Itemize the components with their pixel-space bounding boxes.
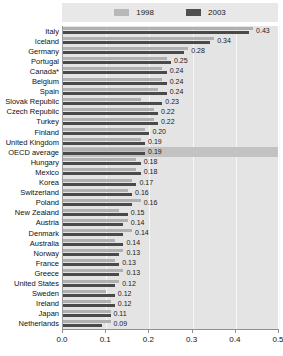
category-label: OECD average [0, 148, 59, 157]
bar-2003 [63, 82, 167, 85]
bar-value-label: 0.12 [118, 289, 132, 299]
bar-value-label: 0.23 [165, 97, 179, 107]
legend-label-1998: 1998 [136, 9, 154, 17]
bar-value-label: 0.19 [148, 147, 162, 157]
bar-1998 [63, 239, 115, 242]
category-label: France [0, 259, 59, 268]
bar-1998 [63, 67, 162, 70]
bar-1998 [63, 168, 136, 171]
bar-value-label: 0.22 [161, 107, 175, 117]
bar-value-label: 0.25 [174, 56, 188, 66]
bar-1998 [63, 320, 111, 323]
bar-value-label: 0.28 [191, 46, 205, 56]
bar-value-label: 0.14 [131, 218, 145, 228]
bar-row: 0.14 [63, 228, 278, 238]
tick-mark [62, 329, 63, 333]
category-axis-labels: ItalyIcelandGermanyPortugalCanada*Belgiu… [0, 26, 59, 329]
tick-label: 0.2 [143, 335, 154, 345]
bar-value-label: 0.14 [135, 228, 149, 238]
x-axis-ticks [62, 329, 278, 334]
bar-rows: 0.430.340.280.250.240.240.240.230.220.22… [63, 26, 278, 329]
category-label: Switzerland [0, 188, 59, 197]
bar-1998 [63, 249, 123, 252]
bar-row: 0.24 [63, 66, 278, 76]
tick-label: 0.5 [272, 335, 283, 345]
bar-row: 0.24 [63, 87, 278, 97]
category-label: Poland [0, 198, 59, 207]
bar-row: 0.19 [63, 137, 278, 147]
bar-2003 [63, 92, 167, 95]
bar-2003 [63, 152, 145, 155]
bar-value-label: 0.13 [126, 248, 140, 258]
bar-row: 0.23 [63, 97, 278, 107]
bar-1998 [63, 269, 123, 272]
category-label: Mexico [0, 168, 59, 177]
bar-2003 [63, 61, 171, 64]
bar-value-label: 0.19 [148, 137, 162, 147]
bar-2003 [63, 294, 115, 297]
bar-2003 [63, 314, 111, 317]
bar-2003 [63, 203, 132, 206]
bar-value-label: 0.16 [144, 198, 158, 208]
bar-1998 [63, 148, 145, 151]
category-label: United Kingdom [0, 138, 59, 147]
bar-value-label: 0.09 [114, 319, 128, 329]
bar-2003 [63, 112, 158, 115]
chart-legend: 1998 2003 [62, 3, 278, 22]
tick-mark [235, 329, 236, 333]
bar-2003 [63, 263, 119, 266]
bar-2003 [63, 193, 132, 196]
category-label: Slovak Republic [0, 97, 59, 106]
bar-2003 [63, 41, 210, 44]
bar-value-label: 0.24 [170, 77, 184, 87]
bar-value-label: 0.22 [161, 117, 175, 127]
bar-2003 [63, 253, 119, 256]
bar-row: 0.22 [63, 117, 278, 127]
legend-label-2003: 2003 [208, 9, 226, 17]
category-label: United States [0, 279, 59, 288]
plot-area: 0.430.340.280.250.240.240.240.230.220.22… [62, 26, 278, 329]
bar-value-label: 0.16 [135, 188, 149, 198]
bar-2003 [63, 213, 128, 216]
bar-value-label: 0.20 [152, 127, 166, 137]
bar-row: 0.13 [63, 268, 278, 278]
bar-1998 [63, 98, 141, 101]
tick-label: 0.0 [56, 335, 67, 345]
bar-2003 [63, 183, 136, 186]
bar-1998 [63, 229, 132, 232]
category-label: Netherlands [0, 319, 59, 328]
bar-row: 0.16 [63, 188, 278, 198]
x-axis-tick-labels: 0.00.10.20.30.40.5 [62, 335, 278, 347]
bar-2003 [63, 142, 145, 145]
category-label: Korea [0, 178, 59, 187]
bar-1998 [63, 158, 136, 161]
category-label: Hungary [0, 158, 59, 167]
bar-1998 [63, 300, 111, 303]
bar-2003 [63, 71, 167, 74]
bar-value-label: 0.24 [170, 87, 184, 97]
tick-mark [278, 329, 279, 333]
bar-2003 [63, 243, 123, 246]
category-label: Belgium [0, 77, 59, 86]
category-label: Sweden [0, 289, 59, 298]
bar-row: 0.18 [63, 157, 278, 167]
legend-swatch-1998 [114, 9, 129, 16]
bar-2003 [63, 284, 115, 287]
bar-2003 [63, 233, 123, 236]
bar-2003 [63, 324, 102, 327]
bar-row: 0.19 [63, 147, 278, 157]
bar-2003 [63, 51, 184, 54]
bar-2003 [63, 223, 123, 226]
bar-value-label: 0.17 [139, 178, 153, 188]
legend-entry-1998: 1998 [114, 9, 154, 17]
bar-1998 [63, 27, 253, 30]
tick-label: 0.4 [229, 335, 240, 345]
bar-value-label: 0.43 [256, 26, 270, 36]
bar-value-label: 0.15 [131, 208, 145, 218]
bar-value-label: 0.24 [170, 66, 184, 76]
category-label: Canada* [0, 67, 59, 76]
bar-row: 0.15 [63, 208, 278, 218]
bar-1998 [63, 37, 214, 40]
bar-1998 [63, 88, 158, 91]
bar-row: 0.09 [63, 319, 278, 329]
